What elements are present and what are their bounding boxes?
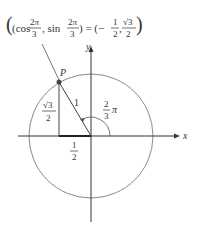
svg-text:π: π [112,104,118,115]
x-axis-label: x [182,130,188,141]
svg-text:√3: √3 [43,100,53,110]
base-label: 1 2 [70,140,78,162]
hypotenuse-label: 1 [74,97,79,108]
svg-text:2π: 2π [30,17,40,27]
svg-text:2: 2 [126,29,131,39]
svg-text:3: 3 [70,29,75,39]
unit-circle-diagram: ( (cos 2π 3 , sin 2π 3 ) = (− 1 2 , √3 2… [0,0,201,226]
svg-text:2π: 2π [68,17,78,27]
svg-text:(cos: (cos [12,22,30,35]
svg-text:) = (−: ) = (− [79,22,104,35]
angle-label: 2 3 π [103,99,118,121]
radius-line [59,82,91,136]
svg-text:, sin: , sin [42,22,61,34]
svg-text:1: 1 [72,140,77,150]
y-axis-label: y [85,41,91,52]
svg-text:2: 2 [113,29,118,39]
svg-text:3: 3 [104,111,109,121]
svg-text:2: 2 [46,113,51,123]
svg-text:2: 2 [72,152,77,162]
point-p-label: P [59,67,66,78]
svg-text:,: , [119,22,122,34]
svg-text:3: 3 [32,29,37,39]
svg-text:1: 1 [113,17,118,27]
coordinate-formula: ( (cos 2π 3 , sin 2π 3 ) = (− 1 2 , √3 2… [6,13,143,39]
point-p [57,80,62,85]
svg-text:√3: √3 [123,17,133,27]
svg-text:): ) [136,13,143,36]
height-label: √3 2 [42,100,56,123]
leader-line [42,44,59,80]
x-axis-arrow-icon [174,134,180,139]
svg-text:2: 2 [104,99,109,109]
